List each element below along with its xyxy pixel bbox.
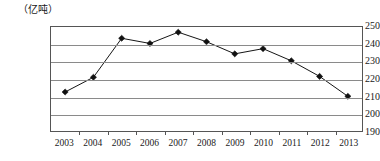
x-axis-tick-label: 2012 [311, 138, 330, 149]
x-axis-tick-mark [193, 131, 194, 135]
x-axis-tick-label: 2009 [225, 138, 244, 149]
x-axis-tick-mark [136, 131, 137, 135]
x-axis-tick-label: 2003 [55, 138, 74, 149]
x-axis-tick-mark [250, 131, 251, 135]
gridline [51, 45, 362, 46]
x-axis-tick-labels: 2003200420052006200720082009201020112012… [50, 138, 363, 154]
x-axis-tick-label: 2004 [83, 138, 102, 149]
data-point-marker [317, 73, 323, 79]
x-axis-tick-mark [279, 131, 280, 135]
gridline [51, 62, 362, 63]
data-point-marker [62, 89, 68, 95]
x-axis-tick-mark [336, 131, 337, 135]
x-axis-tick-mark [307, 131, 308, 135]
gridline [51, 115, 362, 116]
x-axis-tick-label: 2010 [254, 138, 273, 149]
x-axis-tick-mark [108, 131, 109, 135]
x-axis-tick-label: 2007 [169, 138, 188, 149]
x-axis-tick-label: 2013 [339, 138, 358, 149]
x-axis-tick-mark [79, 131, 80, 135]
chart-figure: （亿吨） 250240230220210200190 2003200420052… [0, 0, 380, 161]
plot-area [50, 26, 363, 132]
data-point-marker [260, 46, 266, 52]
x-axis-tick-label: 2008 [197, 138, 216, 149]
data-point-marker [175, 29, 181, 35]
x-axis-tick-mark [165, 131, 166, 135]
data-point-marker [232, 51, 238, 57]
x-axis-tick-label: 2011 [283, 138, 302, 149]
x-axis-tick-label: 2006 [140, 138, 159, 149]
y-axis-unit-label: （亿吨） [18, 4, 58, 16]
x-axis-tick-label: 2005 [112, 138, 131, 149]
x-axis-tick-mark [222, 131, 223, 135]
gridline [51, 80, 362, 81]
gridline [51, 98, 362, 99]
data-point-marker [119, 35, 125, 41]
